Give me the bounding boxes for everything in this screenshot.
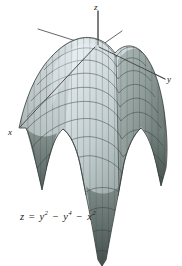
axis-label-y: y bbox=[167, 75, 171, 84]
equation-term1-exponent: 2 bbox=[44, 209, 48, 216]
axis-label-z: z bbox=[94, 3, 98, 12]
axis-label-x: x bbox=[8, 128, 12, 137]
surface-body bbox=[0, 0, 182, 266]
equation-term3-exponent: 2 bbox=[92, 209, 96, 216]
equation-caption: z = y2 − y4 − x2 bbox=[20, 209, 96, 222]
equation-operator-2: − bbox=[75, 211, 84, 222]
surface-plot-figure: z y x z = y2 − y4 − x2 bbox=[0, 0, 182, 266]
equation-term2-exponent: 4 bbox=[68, 209, 72, 216]
equation-lhs: z bbox=[20, 211, 24, 222]
equation-equals: = bbox=[27, 211, 36, 222]
surface-mesh-u-lines bbox=[0, 0, 182, 266]
surface-plot-canvas bbox=[0, 0, 182, 266]
equation-operator-1: − bbox=[51, 211, 60, 222]
